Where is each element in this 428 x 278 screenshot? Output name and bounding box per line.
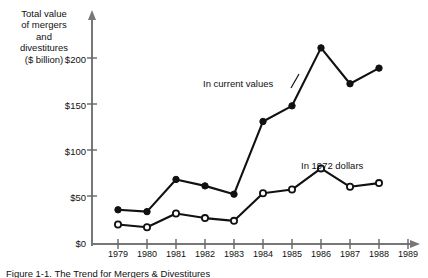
plot-area bbox=[0, 0, 428, 278]
series-in-current-values bbox=[115, 45, 382, 215]
chart-container: Total value of mergers and divestitures … bbox=[0, 0, 428, 278]
annotation-leader-line bbox=[291, 74, 299, 88]
annotation-in-1972-dollars: In 1972 dollars bbox=[301, 160, 363, 171]
axis-lines bbox=[88, 10, 420, 248]
series-in-1972-dollars bbox=[115, 165, 382, 230]
figure-caption: Figure 1-1. The Trend for Mergers & Dive… bbox=[6, 268, 210, 278]
annotation-in-current-values: In current values bbox=[203, 78, 273, 89]
